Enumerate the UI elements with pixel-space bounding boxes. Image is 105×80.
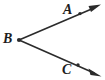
angle-diagram-figure: A B C <box>0 0 105 80</box>
ray-bc-arrowhead-icon <box>89 69 102 77</box>
point-label-c: C <box>62 63 71 77</box>
vertex-dot-b <box>17 38 21 42</box>
point-dot-a <box>78 12 81 15</box>
angle-diagram-canvas <box>0 0 105 80</box>
ray-bc-line <box>19 40 94 73</box>
point-dot-c <box>76 63 79 66</box>
point-label-a: A <box>63 3 72 17</box>
ray-ba-arrowhead-icon <box>89 5 102 13</box>
point-label-b: B <box>3 32 12 46</box>
ray-ba-line <box>19 8 94 40</box>
